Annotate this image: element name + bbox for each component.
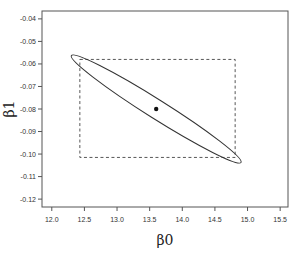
x-axis-ticks: 12.012.513.013.514.014.515.015.5 bbox=[45, 207, 287, 223]
x-tick-label: 14.5 bbox=[208, 216, 222, 223]
y-tick-label: -0.05 bbox=[20, 38, 36, 45]
x-tick-label: 15.0 bbox=[241, 216, 255, 223]
y-tick-label: -0.06 bbox=[20, 60, 36, 67]
y-tick-label: -0.11 bbox=[21, 173, 37, 180]
y-tick-label: -0.07 bbox=[20, 83, 36, 90]
plot-area bbox=[42, 11, 288, 207]
y-tick-label: -0.08 bbox=[20, 106, 36, 113]
y-tick-label: -0.09 bbox=[20, 128, 36, 135]
x-tick-label: 12.5 bbox=[78, 216, 92, 223]
x-axis-title: β0 bbox=[156, 232, 173, 248]
y-axis-title: β1 bbox=[1, 100, 17, 117]
x-tick-label: 15.5 bbox=[273, 216, 287, 223]
y-tick-label: -0.10 bbox=[20, 151, 36, 158]
point-estimate bbox=[154, 107, 158, 111]
confidence-region-chart: 12.012.513.013.514.014.515.015.5 -0.04-0… bbox=[0, 0, 300, 255]
x-tick-label: 13.5 bbox=[143, 216, 157, 223]
x-tick-label: 13.0 bbox=[110, 216, 124, 223]
y-tick-label: -0.04 bbox=[20, 15, 36, 22]
y-axis-ticks: -0.04-0.05-0.06-0.07-0.08-0.09-0.10-0.11… bbox=[20, 15, 42, 202]
x-tick-label: 12.0 bbox=[45, 216, 59, 223]
x-tick-label: 14.0 bbox=[175, 216, 189, 223]
y-tick-label: -0.12 bbox=[20, 196, 36, 203]
